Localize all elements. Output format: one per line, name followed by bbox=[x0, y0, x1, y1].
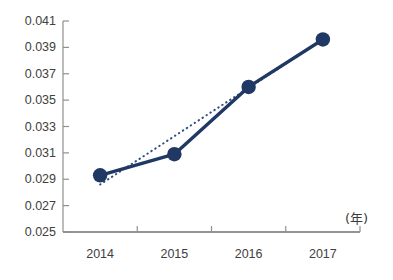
x-tick-label-2016: 2016 bbox=[235, 248, 263, 261]
x-tick-label-2014: 2014 bbox=[86, 248, 114, 261]
line-chart: 0.041 0.039 0.037 0.035 0.033 0.031 0.02… bbox=[0, 0, 393, 280]
x-axis-title: (年) bbox=[345, 212, 368, 225]
x-tick-label-2015: 2015 bbox=[160, 248, 188, 261]
x-tick-label-2017: 2017 bbox=[309, 248, 337, 261]
x-axis-labels: 2014 2015 2016 2017 bbox=[0, 0, 393, 280]
